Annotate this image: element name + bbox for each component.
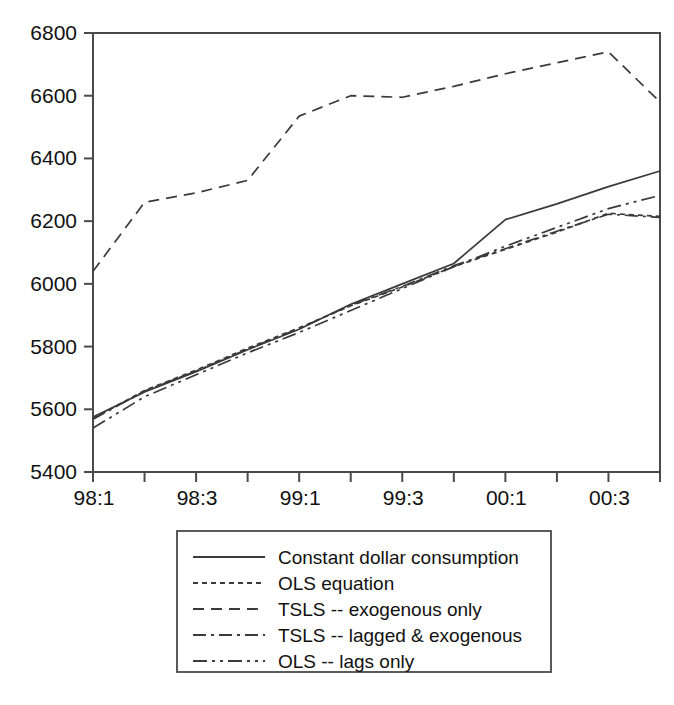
legend-label-4: OLS -- lags only bbox=[278, 651, 415, 672]
plot-area-frame bbox=[93, 33, 660, 472]
x-axis: 98:198:399:199:300:100:3 bbox=[74, 472, 660, 509]
legend-label-0: Constant dollar consumption bbox=[278, 547, 519, 568]
x-tick-label: 99:3 bbox=[383, 486, 424, 509]
chart-legend: Constant dollar consumptionOLS equationT… bbox=[177, 531, 551, 672]
series-line-4 bbox=[93, 195, 660, 428]
data-series-group bbox=[93, 52, 660, 428]
x-tick-label: 99:1 bbox=[280, 486, 321, 509]
legend-label-1: OLS equation bbox=[278, 573, 394, 594]
legend-label-2: TSLS -- exogenous only bbox=[278, 599, 482, 620]
y-tick-label: 6800 bbox=[30, 21, 77, 44]
y-tick-label: 5800 bbox=[30, 335, 77, 358]
y-tick-label: 6000 bbox=[30, 272, 77, 295]
line-chart-canvas: 54005600580060006200640066006800 98:198:… bbox=[0, 0, 674, 705]
series-line-0 bbox=[93, 171, 660, 417]
legend-label-3: TSLS -- lagged & exogenous bbox=[278, 625, 522, 646]
x-tick-label: 00:1 bbox=[486, 486, 527, 509]
y-tick-label: 5600 bbox=[30, 397, 77, 420]
series-line-2 bbox=[93, 52, 660, 272]
chart-figure: 54005600580060006200640066006800 98:198:… bbox=[0, 0, 674, 705]
y-tick-label: 6400 bbox=[30, 146, 77, 169]
x-tick-label: 98:1 bbox=[74, 486, 115, 509]
y-tick-label: 5400 bbox=[30, 460, 77, 483]
y-tick-label: 6200 bbox=[30, 209, 77, 232]
y-tick-label: 6600 bbox=[30, 84, 77, 107]
series-line-1 bbox=[93, 213, 660, 418]
x-tick-label: 98:3 bbox=[177, 486, 218, 509]
series-line-3 bbox=[93, 214, 660, 419]
x-tick-label: 00:3 bbox=[589, 486, 630, 509]
y-axis: 54005600580060006200640066006800 bbox=[30, 21, 93, 483]
